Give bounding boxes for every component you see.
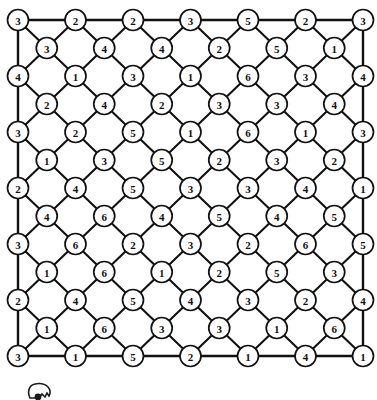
graph-node[interactable]: 1	[353, 346, 374, 367]
graph-node[interactable]: 5	[123, 346, 144, 367]
graph-node[interactable]: 5	[123, 290, 144, 311]
graph-node[interactable]: 3	[238, 178, 259, 199]
graph-node[interactable]: 3	[8, 346, 29, 367]
graph-node[interactable]: 3	[209, 318, 230, 339]
graph-node[interactable]: 3	[8, 234, 29, 255]
node-label: 2	[15, 295, 21, 307]
graph-node[interactable]: 4	[353, 290, 374, 311]
graph-node[interactable]: 3	[238, 290, 259, 311]
graph-node[interactable]: 1	[36, 150, 57, 171]
node-label: 4	[303, 351, 309, 363]
graph-node[interactable]: 2	[324, 150, 345, 171]
graph-edge	[341, 223, 356, 237]
graph-node[interactable]: 3	[36, 38, 57, 59]
graph-node[interactable]: 6	[94, 318, 115, 339]
graph-node[interactable]: 2	[209, 38, 230, 59]
graph-node[interactable]: 6	[94, 262, 115, 283]
graph-node[interactable]: 6	[238, 66, 259, 87]
node-label: 6	[102, 211, 108, 223]
graph-edge	[25, 195, 40, 209]
graph-node[interactable]: 4	[65, 290, 86, 311]
graph-node[interactable]: 4	[151, 38, 172, 59]
graph-node[interactable]: 1	[295, 122, 316, 143]
graph-node[interactable]: 3	[151, 318, 172, 339]
graph-node[interactable]: 6	[324, 318, 345, 339]
graph-node[interactable]: 3	[180, 178, 201, 199]
graph-edge	[83, 223, 98, 237]
graph-node[interactable]: 2	[151, 94, 172, 115]
graph-node[interactable]: 3	[266, 150, 287, 171]
graph-node[interactable]: 1	[36, 318, 57, 339]
node-label: 6	[73, 239, 79, 251]
graph-node[interactable]: 4	[295, 178, 316, 199]
graph-node[interactable]: 2	[180, 346, 201, 367]
graph-node[interactable]: 4	[353, 66, 374, 87]
graph-node[interactable]: 2	[65, 10, 86, 31]
graph-node[interactable]: 5	[266, 262, 287, 283]
graph-node[interactable]: 3	[353, 10, 374, 31]
graph-node[interactable]: 1	[353, 178, 374, 199]
graph-node[interactable]: 1	[180, 122, 201, 143]
graph-node[interactable]: 4	[151, 206, 172, 227]
graph-node[interactable]: 1	[65, 66, 86, 87]
graph-node[interactable]: 1	[151, 262, 172, 283]
graph-node[interactable]: 3	[8, 122, 29, 143]
node-label: 1	[360, 351, 366, 363]
graph-edge	[25, 251, 40, 265]
graph-node[interactable]: 5	[123, 122, 144, 143]
graph-node[interactable]: 3	[266, 94, 287, 115]
graph-node[interactable]: 3	[209, 94, 230, 115]
graph-node[interactable]: 5	[151, 150, 172, 171]
graph-node[interactable]: 4	[94, 94, 115, 115]
graph-node[interactable]: 5	[238, 10, 259, 31]
graph-node[interactable]: 5	[123, 178, 144, 199]
graph-node[interactable]: 2	[36, 94, 57, 115]
graph-node[interactable]: 4	[324, 94, 345, 115]
graph-node[interactable]: 5	[324, 206, 345, 227]
graph-node[interactable]: 4	[180, 290, 201, 311]
graph-node[interactable]: 4	[295, 346, 316, 367]
graph-node[interactable]: 3	[123, 66, 144, 87]
node-label: 4	[274, 211, 280, 223]
graph-node[interactable]: 1	[180, 66, 201, 87]
graph-node[interactable]: 4	[36, 206, 57, 227]
graph-node[interactable]: 2	[123, 10, 144, 31]
graph-node[interactable]: 1	[65, 346, 86, 367]
graph-node[interactable]: 3	[8, 10, 29, 31]
graph-node[interactable]: 3	[295, 66, 316, 87]
graph-node[interactable]: 6	[238, 122, 259, 143]
graph-node[interactable]: 4	[8, 66, 29, 87]
graph-edge	[169, 279, 184, 293]
graph-node[interactable]: 5	[266, 38, 287, 59]
graph-node[interactable]: 2	[209, 262, 230, 283]
graph-node[interactable]: 6	[65, 234, 86, 255]
graph-node[interactable]: 1	[36, 262, 57, 283]
graph-node[interactable]: 3	[94, 150, 115, 171]
graph-node[interactable]: 2	[295, 290, 316, 311]
graph-node[interactable]: 3	[180, 10, 201, 31]
graph-node[interactable]: 2	[209, 150, 230, 171]
graph-node[interactable]: 2	[123, 234, 144, 255]
node-label: 2	[44, 99, 50, 111]
graph-node[interactable]: 6	[295, 234, 316, 255]
graph-node[interactable]: 3	[353, 122, 374, 143]
graph-node[interactable]: 4	[94, 38, 115, 59]
graph-node[interactable]: 4	[65, 178, 86, 199]
graph-node[interactable]: 3	[324, 262, 345, 283]
node-label: 5	[130, 183, 136, 195]
graph-node[interactable]: 4	[266, 206, 287, 227]
graph-node[interactable]: 2	[65, 122, 86, 143]
graph-edge	[255, 279, 270, 293]
graph-node[interactable]: 2	[295, 10, 316, 31]
graph-node[interactable]: 1	[324, 38, 345, 59]
graph-node[interactable]: 3	[180, 234, 201, 255]
graph-node[interactable]: 1	[238, 346, 259, 367]
graph-edge	[198, 167, 213, 181]
graph-node[interactable]: 1	[266, 318, 287, 339]
graph-node[interactable]: 2	[8, 290, 29, 311]
graph-node[interactable]: 6	[94, 206, 115, 227]
graph-node[interactable]: 5	[209, 206, 230, 227]
graph-node[interactable]: 2	[238, 234, 259, 255]
graph-node[interactable]: 5	[353, 234, 374, 255]
graph-node[interactable]: 2	[8, 178, 29, 199]
